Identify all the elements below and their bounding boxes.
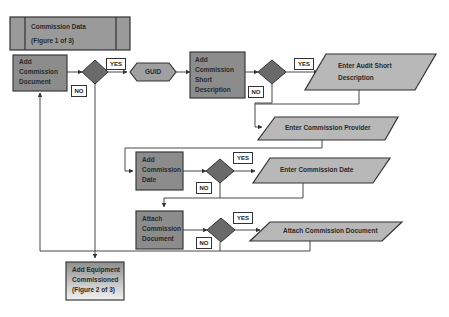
add-date-l1: Add: [142, 155, 155, 165]
io-date-label: Enter Commission Date: [280, 165, 353, 175]
guid-label: GUID: [145, 67, 161, 77]
equipment-l1: Add Equipment: [72, 265, 120, 275]
io-audit-l1: Enter Audit Short: [338, 61, 392, 71]
attach-doc-l1: Attach: [142, 214, 162, 224]
yes-tag-4: YES: [233, 212, 253, 224]
no-tag-2: NO: [248, 86, 264, 98]
equipment-l3: (Figure 2 of 3): [72, 285, 115, 295]
header-subtitle: (Figure 1 of 3): [31, 36, 74, 46]
decision-1: [82, 60, 108, 84]
yes-tag-3: YES: [233, 152, 253, 164]
equipment-l2: Commissioned: [72, 275, 119, 285]
add-date-l3: Date: [142, 175, 156, 185]
no-tag-3: NO: [196, 182, 212, 194]
io-audit-short-description: [305, 54, 436, 90]
decision-2: [258, 60, 286, 84]
add-short-l2: Commission: [195, 65, 234, 75]
io-audit-l2: Description: [338, 73, 374, 83]
attach-doc-l2: Commission: [142, 224, 181, 234]
add-date-l2: Commission: [142, 165, 181, 175]
add-short-l3: Short: [195, 75, 212, 85]
no-tag-1: NO: [71, 85, 87, 97]
io-provider-label: Enter Commission Provider: [285, 123, 371, 133]
flowchart-canvas: [0, 0, 449, 317]
yes-tag-2: YES: [294, 58, 314, 70]
no-tag-4: NO: [196, 237, 212, 249]
add-doc-l2: Commission: [19, 67, 58, 77]
yes-tag-1: YES: [106, 58, 126, 70]
add-doc-l3: Document: [19, 77, 51, 87]
header-title: Commission Data: [31, 22, 86, 32]
attach-doc-l3: Document: [142, 234, 174, 244]
add-doc-l1: Add: [19, 57, 32, 67]
decision-3: [206, 159, 234, 183]
add-short-l1: Add: [195, 55, 208, 65]
add-short-l4: Description: [195, 85, 231, 95]
io-attach-label: Attach Commission Document: [283, 226, 378, 236]
